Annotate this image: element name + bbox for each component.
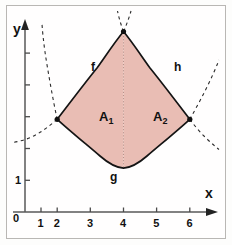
curve-label-g: g bbox=[110, 171, 117, 183]
area-label-A1: A1 bbox=[99, 110, 113, 123]
curve-label-h: h bbox=[174, 61, 181, 73]
vertex-right-marker bbox=[187, 117, 192, 122]
area-label-A1-letter: A bbox=[99, 109, 108, 124]
x-tick-label-4: 4 bbox=[120, 218, 126, 229]
curve-h-dashed-extension-upper bbox=[118, 11, 124, 32]
origin-label: 0 bbox=[13, 213, 19, 224]
curve-h-dashed-extension-right bbox=[190, 119, 219, 149]
plot-canvas bbox=[0, 0, 232, 245]
area-label-A1-subscript: 1 bbox=[108, 116, 113, 126]
curve-g-dashed-extension-left bbox=[14, 119, 57, 142]
y-axis-label: y bbox=[13, 22, 21, 36]
vertex-apex-marker bbox=[121, 29, 126, 34]
x-tick-label-5: 5 bbox=[153, 218, 159, 229]
x-tick-label-6: 6 bbox=[186, 218, 192, 229]
x-axis-label: x bbox=[205, 186, 213, 200]
y-axis-arrow bbox=[21, 19, 29, 30]
x-tick-label-3: 3 bbox=[87, 218, 93, 229]
curve-label-f: f bbox=[91, 61, 95, 73]
figure-root: y x 0 1 2 3 4 5 6 1 f g h A1 A2 bbox=[0, 0, 232, 245]
x-tick-label-1: 1 bbox=[38, 218, 44, 229]
y-tick-label-1: 1 bbox=[15, 175, 21, 186]
area-label-A2-letter: A bbox=[153, 109, 162, 124]
curve-f-dashed-extension-upper bbox=[124, 11, 132, 32]
area-label-A2: A2 bbox=[153, 110, 167, 123]
vertex-left-marker bbox=[55, 117, 60, 122]
curve-f-dashed-extension-left bbox=[42, 24, 57, 119]
area-label-A2-subscript: 2 bbox=[162, 116, 167, 126]
curve-g-dashed-extension-right bbox=[190, 60, 219, 119]
x-axis-arrow bbox=[206, 208, 218, 216]
x-tick-label-2: 2 bbox=[54, 218, 60, 229]
